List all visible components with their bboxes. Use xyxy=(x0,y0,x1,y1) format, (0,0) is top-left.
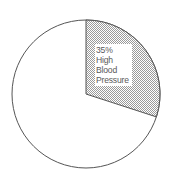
slice-label-high-blood-pressure: 35% High Blood Pressure xyxy=(95,44,132,86)
slice-name-line-3: Pressure xyxy=(96,75,132,85)
slice-name-line-1: High xyxy=(96,55,132,65)
slice-percent-label: 35% xyxy=(96,45,132,55)
slice-name-line-2: Blood xyxy=(96,65,132,75)
pie-chart xyxy=(0,0,173,182)
